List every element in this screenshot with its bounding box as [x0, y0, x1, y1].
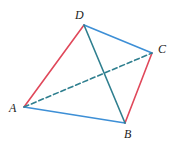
vertex-label-d: D [74, 8, 84, 22]
vertex-label-a: A [8, 101, 17, 115]
vertex-label-c: C [158, 42, 167, 56]
edges-group [24, 25, 152, 123]
vertex-label-b: B [124, 127, 132, 141]
edge-ab [24, 107, 125, 123]
tetrahedron-diagram: A B C D [0, 0, 176, 141]
